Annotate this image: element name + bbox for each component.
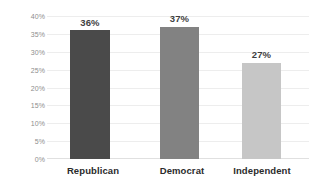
y-axis-tick-label: 35% [1,30,45,37]
y-axis-tick-label: 10% [1,120,45,127]
y-axis-tick-label: 20% [1,84,45,91]
bar-value-label: 37% [146,14,213,24]
y-axis-tick-label: 5% [1,138,45,145]
bar-chart: 0% 5% 10% 15% 20% 25% 30% 35% 40% 36% 37… [0,0,317,186]
y-axis: 0% 5% 10% 15% 20% 25% 30% 35% 40% [0,16,45,159]
bar-independent[interactable] [242,63,281,160]
y-axis-tick-label: 15% [1,102,45,109]
bar-democrat[interactable] [160,27,199,159]
bar-group-republican[interactable]: 36% [70,30,110,159]
y-axis-tick-label: 25% [1,66,45,73]
bar-group-independent[interactable]: 27% [242,63,281,160]
bar-value-label: 36% [56,18,124,28]
bar-value-label: 27% [228,50,295,60]
bar-republican[interactable] [70,30,110,159]
bar-group-democrat[interactable]: 37% [160,27,199,159]
y-axis-tick-label: 30% [1,48,45,55]
plot-area: 36% 37% 27% [47,16,309,159]
y-axis-tick-label: 0% [1,156,45,163]
x-axis-label-independent: Independent [209,166,315,176]
y-axis-tick-label: 40% [1,13,45,20]
